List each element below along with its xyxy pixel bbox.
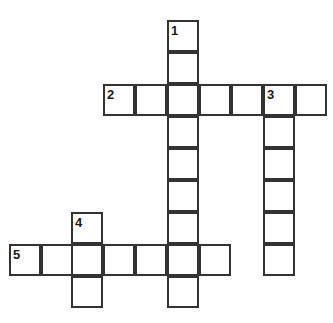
crossword-cell[interactable] [263, 84, 295, 116]
crossword-cell[interactable] [167, 116, 199, 148]
crossword-cell[interactable] [167, 52, 199, 84]
crossword-cell[interactable] [135, 244, 167, 276]
crossword-cell[interactable] [295, 84, 327, 116]
crossword-cell[interactable] [199, 84, 231, 116]
crossword-cell[interactable] [9, 244, 41, 276]
crossword-cell[interactable] [71, 212, 103, 244]
crossword-cell[interactable] [167, 276, 199, 308]
crossword-cell[interactable] [167, 20, 199, 52]
crossword-cell[interactable] [167, 212, 199, 244]
crossword-cell[interactable] [263, 212, 295, 244]
crossword-cell[interactable] [167, 148, 199, 180]
crossword-cell[interactable] [199, 244, 231, 276]
crossword-cell[interactable] [167, 244, 199, 276]
crossword-cell[interactable] [41, 244, 73, 276]
crossword-cell[interactable] [103, 244, 135, 276]
crossword-grid: 12345 [0, 0, 333, 323]
crossword-cell[interactable] [71, 276, 103, 308]
crossword-cell[interactable] [263, 148, 295, 180]
crossword-cell[interactable] [71, 244, 103, 276]
crossword-cell[interactable] [231, 84, 263, 116]
crossword-cell[interactable] [135, 84, 167, 116]
crossword-cell[interactable] [167, 180, 199, 212]
crossword-cell[interactable] [263, 116, 295, 148]
crossword-cell[interactable] [103, 84, 135, 116]
crossword-cell[interactable] [263, 180, 295, 212]
crossword-cell[interactable] [167, 84, 199, 116]
crossword-cell[interactable] [263, 244, 295, 276]
